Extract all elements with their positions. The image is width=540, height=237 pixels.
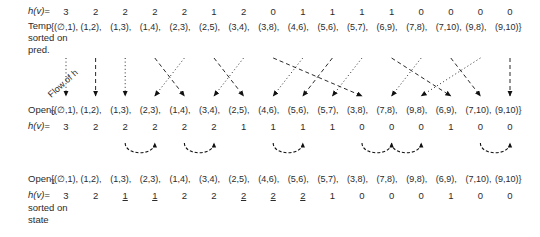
open-pair: (1,2), — [81, 22, 102, 32]
open-pair: (1,3), — [110, 105, 131, 115]
h-value: 1 — [207, 6, 221, 17]
h-value: 1 — [385, 6, 399, 17]
h-value: 0 — [503, 121, 517, 132]
open-pair: (5,7), — [317, 105, 338, 115]
open-pair: (7,8), — [377, 174, 398, 184]
open-pair: (1,2), — [81, 105, 102, 115]
open-pair: (6,9), — [436, 105, 457, 115]
h-value: 0 — [473, 121, 487, 132]
h-value: 1 — [296, 121, 310, 132]
h-value: 1 — [237, 121, 251, 132]
open-pair: (1,3), — [110, 22, 131, 32]
open-pair: (2,5), — [229, 105, 250, 115]
open-pair: (9,8), — [406, 105, 427, 115]
h-value: 3 — [59, 121, 73, 132]
h-value: 2 — [266, 190, 280, 201]
h-value: 2 — [118, 121, 132, 132]
open-pair: (9,8), — [406, 174, 427, 184]
open-pair: (7,10), — [465, 105, 491, 115]
open-pair: (3,8), — [347, 174, 368, 184]
open-pair: (6,9), — [377, 22, 398, 32]
h-value: 1 — [118, 190, 132, 201]
temp-row-label-3: pred. — [28, 45, 50, 56]
open-pair: (1,2), — [81, 174, 102, 184]
open1-row-label-2: sorted on — [28, 203, 68, 214]
open1-h-label: h(v)= — [28, 190, 50, 201]
open-pair: (2,3), — [140, 105, 161, 115]
h-value: 0 — [444, 6, 458, 17]
h-value: 1 — [296, 6, 310, 17]
h-value: 0 — [414, 6, 428, 17]
h-value: 1 — [325, 121, 339, 132]
h-value: 2 — [237, 190, 251, 201]
temp-row-label-2: sorted on — [28, 33, 68, 44]
temp-row-label-1: Temp — [28, 21, 51, 32]
open-pair: (4,6), — [258, 174, 279, 184]
open-pair: (3,4), — [229, 22, 250, 32]
h-value: 2 — [207, 121, 221, 132]
h-value: 1 — [355, 6, 369, 17]
open-pair: (1,4), — [169, 174, 190, 184]
h-value: 2 — [89, 6, 103, 17]
diagram-canvas: h(v)= 3222212011110000 Temp sorted on pr… — [0, 0, 540, 237]
h-value: 1 — [444, 190, 458, 201]
open-pair: (5,6), — [317, 22, 338, 32]
h-value: 0 — [473, 190, 487, 201]
h-value: 0 — [266, 6, 280, 17]
h-value: 0 — [385, 190, 399, 201]
open0-h-label: h(v)= — [28, 121, 50, 132]
open-pair: (5,7), — [347, 22, 368, 32]
open-pair: (6,9), — [436, 174, 457, 184]
h-value: 2 — [177, 121, 191, 132]
h-value: 0 — [385, 121, 399, 132]
open1-row-label-3: state — [28, 215, 49, 226]
h-value: 2 — [148, 121, 162, 132]
open-pair: {(∅,1), — [51, 105, 78, 115]
h-value: 1 — [325, 6, 339, 17]
h-value: 3 — [59, 190, 73, 201]
open-pair: (3,8), — [347, 105, 368, 115]
open-pair: (3,4), — [199, 105, 220, 115]
temp-h-label: h(v)= — [28, 6, 50, 17]
open-pair: (7,10), — [465, 174, 491, 184]
h-value: 1 — [444, 121, 458, 132]
h-value: 2 — [177, 6, 191, 17]
h-value: 2 — [89, 190, 103, 201]
h-value: 0 — [503, 6, 517, 17]
h-value: 0 — [355, 190, 369, 201]
open-pair: (9,10)} — [495, 174, 522, 184]
h-value: 0 — [473, 6, 487, 17]
open-pair: (3,4), — [199, 174, 220, 184]
open-pair: (1,4), — [140, 22, 161, 32]
h-value: 0 — [503, 190, 517, 201]
h-value: 0 — [414, 190, 428, 201]
open-pair: (2,5), — [229, 174, 250, 184]
open-pair: (9,10)} — [495, 22, 522, 32]
h-value: 0 — [355, 121, 369, 132]
h-value: 2 — [207, 190, 221, 201]
h-value: 2 — [237, 6, 251, 17]
open-pair: (5,7), — [317, 174, 338, 184]
h-value: 2 — [296, 190, 310, 201]
open-pair: (9,10)} — [495, 105, 522, 115]
open-pair: (5,6), — [288, 174, 309, 184]
open-pair: (3,8), — [258, 22, 279, 32]
flow-of-h-label: Flow of h — [46, 68, 80, 100]
open-pair: (7,10), — [436, 22, 462, 32]
open-pair: (2,3), — [169, 22, 190, 32]
h-value: 2 — [177, 190, 191, 201]
open-pair: (4,6), — [288, 22, 309, 32]
open-pair: (9,8), — [465, 22, 486, 32]
open-pair: {(∅,1), — [51, 174, 78, 184]
open-pair: (1,3), — [110, 174, 131, 184]
open-pair: (7,8), — [406, 22, 427, 32]
open-pair: {(∅,1), — [51, 22, 78, 32]
open-pair: (2,5), — [199, 22, 220, 32]
h-value: 1 — [325, 190, 339, 201]
open-pair: (5,6), — [288, 105, 309, 115]
open-pair: (4,6), — [258, 105, 279, 115]
h-value: 1 — [148, 190, 162, 201]
open-pair: (2,3), — [140, 174, 161, 184]
h-value: 2 — [148, 6, 162, 17]
open-pair: (7,8), — [377, 105, 398, 115]
